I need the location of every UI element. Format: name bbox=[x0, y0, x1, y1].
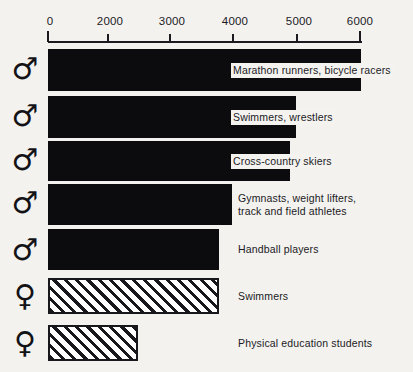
chart-row: ♂ Marathon runners, bicycle racers bbox=[0, 48, 413, 94]
mars-icon: ♂ bbox=[8, 188, 42, 218]
chart-row: ♂ Cross-country skiers bbox=[0, 140, 413, 184]
bar-label-swimmers-female: Swimmers bbox=[238, 290, 288, 303]
x-axis-tick-label-2000: 2000 bbox=[97, 15, 123, 27]
bar-gymnasts-weight-lifters-track-and-field-athletes bbox=[48, 184, 232, 225]
mars-icon: ♂ bbox=[8, 54, 42, 84]
bar-label-marathon-runners-bicycle-racers: Marathon runners, bicycle racers bbox=[231, 63, 393, 78]
chart-row: ♂ Handball players bbox=[0, 228, 413, 274]
x-axis-tick-label-5000: 5000 bbox=[286, 15, 312, 27]
chart-row: ♂ Swimmers, wrestlers bbox=[0, 95, 413, 141]
x-axis-tick-label-3000: 3000 bbox=[159, 15, 185, 27]
x-axis-tick-0 bbox=[47, 31, 49, 42]
mars-icon: ♂ bbox=[8, 235, 42, 265]
bar-label-physical-education-students: Physical education students bbox=[238, 337, 372, 350]
bar-physical-education-students bbox=[48, 325, 138, 361]
mars-icon: ♂ bbox=[8, 145, 42, 175]
x-axis-line bbox=[48, 41, 362, 43]
mars-icon: ♂ bbox=[8, 101, 42, 131]
x-axis-tick-label-0: 0 bbox=[47, 15, 54, 27]
x-axis-tick-2000 bbox=[107, 34, 109, 42]
chart-row: ♀ Swimmers bbox=[0, 277, 413, 321]
bar-swimmers-female bbox=[48, 278, 219, 314]
x-axis-tick-label-6000: 6000 bbox=[347, 15, 373, 27]
venus-icon: ♀ bbox=[8, 281, 42, 311]
x-axis-tick-6000 bbox=[359, 31, 361, 42]
chart-row: ♀ Physical education students bbox=[0, 324, 413, 368]
x-axis-tick-label-4000: 4000 bbox=[222, 15, 248, 27]
x-axis-tick-5000 bbox=[296, 34, 298, 42]
bar-handball-players bbox=[48, 229, 219, 270]
chart-row: ♂ Gymnasts, weight lifters, track and fi… bbox=[0, 183, 413, 228]
x-axis-tick-4000 bbox=[232, 34, 234, 42]
bar-label-cross-country-skiers: Cross-country skiers bbox=[231, 154, 334, 169]
oxygen-uptake-bar-chart: 0 2000 3000 4000 5000 6000 ♂ Marathon ru… bbox=[0, 0, 413, 372]
x-axis: 0 2000 3000 4000 5000 6000 bbox=[0, 0, 413, 46]
venus-icon: ♀ bbox=[8, 328, 42, 358]
x-axis-tick-3000 bbox=[169, 34, 171, 42]
bar-label-swimmers-wrestlers: Swimmers, wrestlers bbox=[231, 110, 335, 125]
bar-label-handball-players: Handball players bbox=[238, 243, 319, 256]
bar-label-gymnasts-weight-lifters-track-and-field-athletes: Gymnasts, weight lifters, track and fiel… bbox=[238, 192, 356, 217]
